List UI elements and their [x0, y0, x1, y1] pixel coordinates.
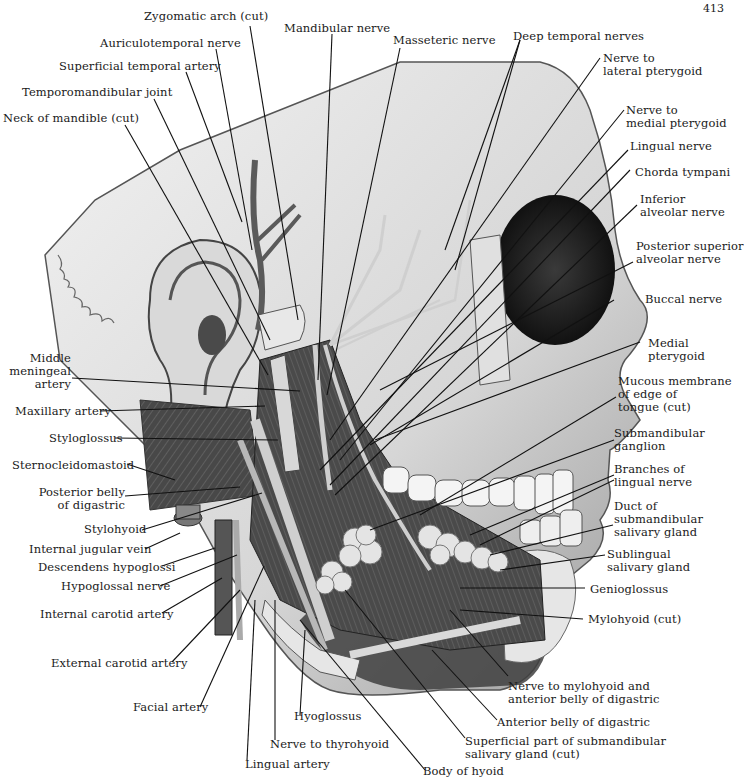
- label-neck-of-mandible: Neck of mandible (cut): [3, 112, 139, 125]
- label-posterior-superior-alveolar-nerve: Posterior superior alveolar nerve: [636, 240, 744, 266]
- page-number: 413: [703, 2, 724, 15]
- label-lingual-artery: Lingual artery: [245, 758, 330, 771]
- label-hyoglossus: Hyoglossus: [294, 710, 362, 723]
- label-external-carotid-artery: External carotid artery: [51, 657, 188, 670]
- label-sternocleidomastoid: Sternocleidomastoid: [12, 459, 134, 472]
- label-zygomatic-arch: Zygomatic arch (cut): [144, 10, 268, 23]
- label-middle-meningeal-artery: Middle meningeal artery: [9, 352, 71, 391]
- label-mucous-membrane: Mucous membrane of edge of tongue (cut): [618, 375, 732, 414]
- label-posterior-belly-digastric: Posterior belly of digastric: [39, 486, 125, 512]
- label-descendens-hypoglossi: Descendens hypoglossi: [38, 561, 175, 574]
- label-mylohyoid: Mylohyoid (cut): [588, 613, 681, 626]
- label-chorda-tympani: Chorda tympani: [635, 166, 730, 179]
- label-nerve-to-lateral-pterygoid: Nerve to lateral pterygoid: [603, 52, 702, 78]
- label-temporomandibular-joint: Temporomandibular joint: [22, 86, 172, 99]
- label-superficial-part-submandibular: Superficial part of submandibular saliva…: [465, 735, 666, 761]
- label-facial-artery: Facial artery: [133, 701, 208, 714]
- carotid-shape: [215, 520, 232, 635]
- label-masseteric-nerve: Masseteric nerve: [393, 34, 496, 47]
- label-buccal-nerve: Buccal nerve: [645, 293, 722, 306]
- label-duct-of-submandibular-gland: Duct of submandibular salivary gland: [614, 500, 703, 539]
- label-submandibular-ganglion: Submandibular ganglion: [614, 427, 705, 453]
- label-sublingual-gland: Sublingual salivary gland: [607, 548, 690, 574]
- label-mandibular-nerve: Mandibular nerve: [284, 22, 390, 35]
- label-medial-pterygoid: Medial pterygoid: [648, 337, 705, 363]
- label-deep-temporal-nerves: Deep temporal nerves: [513, 30, 644, 43]
- label-styloglossus: Styloglossus: [49, 432, 123, 445]
- label-internal-jugular-vein: Internal jugular vein: [29, 543, 151, 556]
- label-nerve-to-medial-pterygoid: Nerve to medial pterygoid: [626, 104, 727, 130]
- label-hypoglossal-nerve: Hypoglossal nerve: [61, 580, 170, 593]
- label-maxillary-artery: Maxillary artery: [15, 405, 111, 418]
- label-superficial-temporal-artery: Superficial temporal artery: [59, 60, 221, 73]
- label-nerve-to-mylohyoid: Nerve to mylohyoid and anterior belly of…: [508, 680, 660, 706]
- label-lingual-nerve: Lingual nerve: [630, 140, 712, 153]
- label-stylohyoid: Stylohyoid: [84, 523, 146, 536]
- label-nerve-to-thyrohyoid: Nerve to thyrohyoid: [270, 738, 389, 751]
- label-anterior-belly-digastric: Anterior belly of digastric: [497, 716, 650, 729]
- label-genioglossus: Genioglossus: [590, 583, 668, 596]
- label-branches-of-lingual-nerve: Branches of lingual nerve: [614, 463, 692, 489]
- label-auriculotemporal-nerve: Auriculotemporal nerve: [100, 37, 241, 50]
- label-body-of-hyoid: Body of hyoid: [423, 765, 504, 778]
- label-inferior-alveolar-nerve: Inferior alveolar nerve: [640, 193, 725, 219]
- label-internal-carotid-artery: Internal carotid artery: [40, 608, 174, 621]
